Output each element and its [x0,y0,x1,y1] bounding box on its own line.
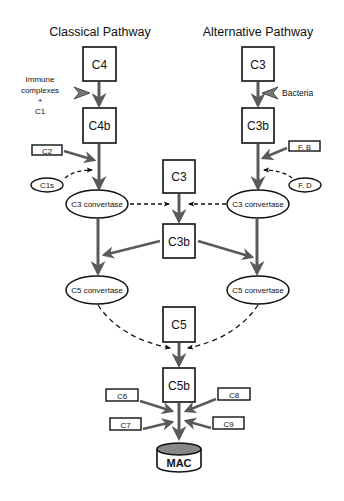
node-c4b: C4b [83,108,116,143]
svg-text:C3b: C3b [168,235,190,249]
node-central-c3: C3 [163,160,195,193]
arrow-c2-to-pathway [64,151,94,160]
dashed-arrow-left-c5-convertase [98,305,170,348]
node-c4: C4 [83,47,116,81]
node-c5b: C5b [163,368,195,402]
svg-text:C3 convertase: C3 convertase [71,200,123,209]
svg-text:F. D: F. D [298,181,312,190]
arrow-c9 [186,421,211,428]
activator-immune-complexes: Immune complexes + C1 [21,75,59,116]
svg-text:C7: C7 [120,421,131,430]
node-factor-b: F. B [289,141,320,152]
svg-text:Immune: Immune [26,75,55,84]
svg-text:C5 convertase: C5 convertase [232,286,284,295]
svg-text:C3: C3 [171,170,187,184]
arrow-c7 [143,422,172,429]
node-c2: C2 [32,145,62,156]
arrow-c3b-to-left [104,241,160,255]
node-alternative-c3-convertase: C3 convertase [227,190,289,218]
activator-bacteria: Bacteria [282,88,313,98]
node-alt-c3: C3 [242,47,274,81]
svg-text:C8: C8 [229,391,240,400]
bacteria-arrowhead-icon [262,87,278,99]
node-c8: C8 [218,388,250,400]
alternative-pathway-title: Alternative Pathway [203,25,314,39]
node-classical-c3-convertase: C3 convertase [66,190,128,218]
svg-text:C3: C3 [250,58,266,72]
node-alt-c3b: C3b [242,108,274,143]
dashed-arrow-right-c5-convertase [188,305,258,348]
svg-text:F. B: F. B [298,143,311,152]
arrow-c3b-to-right [198,241,252,257]
svg-text:C4: C4 [92,58,108,72]
node-c6: C6 [106,389,138,401]
node-alternative-c5-convertase: C5 convertase [227,276,289,304]
svg-text:+: + [38,96,43,105]
node-classical-c5-convertase: C5 convertase [66,276,128,304]
node-c9: C9 [213,417,244,429]
svg-text:complexes: complexes [21,86,59,95]
svg-text:C1s: C1s [40,181,54,190]
svg-text:C1: C1 [35,107,46,116]
svg-text:C9: C9 [223,420,234,429]
node-c7: C7 [110,418,141,430]
dashed-arrow-fd [264,170,292,178]
complement-pathway-diagram: Classical Pathway Alternative Pathway C4… [0,0,344,501]
svg-text:C2: C2 [42,147,53,156]
svg-text:C6: C6 [117,392,128,401]
svg-text:C3b: C3b [247,119,269,133]
dashed-arrow-c1s [65,170,92,178]
node-factor-d: F. D [289,178,321,192]
svg-text:C5b: C5b [168,379,190,393]
node-c1s: C1s [31,178,63,192]
svg-text:C5: C5 [171,318,187,332]
node-c5: C5 [163,307,195,342]
svg-text:C5 convertase: C5 convertase [71,286,123,295]
svg-text:C4b: C4b [88,119,110,133]
classical-pathway-title: Classical Pathway [49,25,151,39]
svg-text:MAC: MAC [166,457,191,469]
node-mac: MAC [157,443,201,472]
node-central-c3b: C3b [163,224,195,258]
svg-text:C3 convertase: C3 convertase [232,200,284,209]
arrow-fb-to-pathway [263,148,287,158]
activator-arrowhead-icon [74,87,90,99]
